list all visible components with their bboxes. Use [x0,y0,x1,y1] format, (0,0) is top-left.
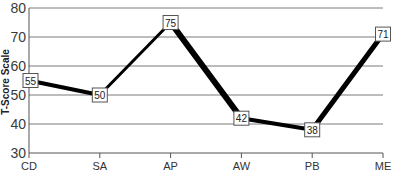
data-label-SA: 50 [94,90,106,101]
series-segment-PB-ME [312,34,383,130]
axes [29,8,383,153]
tscore-line-chart: 304050607080 CDSAAPAWPBME 555075423871 T… [0,0,394,176]
y-axis-title: T-Score Scale [0,49,11,115]
y-tick-label-30: 30 [10,145,26,161]
series-lines [29,23,383,130]
x-tick-label-PB: PB [305,160,320,172]
series-segment-SA-AP [100,23,171,96]
x-tick-label-AW: AW [233,160,251,172]
data-label-CD: 55 [25,76,37,87]
x-tick-label-SA: SA [92,160,107,172]
data-label-ME: 71 [377,29,389,40]
data-label-AW: 42 [236,113,248,124]
y-tick-label-50: 50 [10,87,26,103]
series-segment-CD-SA [29,81,100,96]
y-tick-label-70: 70 [10,29,26,45]
y-tick-label-60: 60 [10,58,26,74]
data-label-PB: 38 [307,125,319,136]
x-tick-label-CD: CD [21,160,37,172]
x-tick-label-ME: ME [375,160,392,172]
x-axis-ticks: CDSAAPAWPBME [21,153,391,172]
y-tick-label-80: 80 [10,0,26,16]
x-tick-label-AP: AP [163,160,178,172]
data-label-AP: 75 [165,18,177,29]
y-tick-label-40: 40 [10,116,26,132]
